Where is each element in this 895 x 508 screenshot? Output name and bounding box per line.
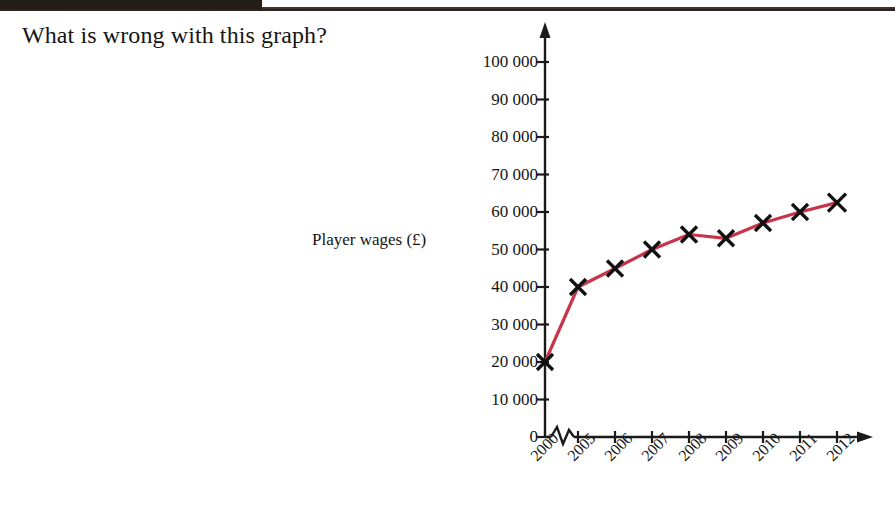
data-line [545, 203, 837, 362]
data-point-2005 [570, 279, 586, 295]
y-axis-ticks [537, 62, 549, 437]
data-point-2007 [644, 242, 660, 258]
data-markers [537, 194, 846, 370]
y-axis [540, 22, 551, 437]
plot-area [0, 0, 895, 508]
worksheet-page: What is wrong with this graph? Player wa… [0, 0, 895, 508]
line-chart: Player wages (£) 0 10 000 20 000 30 000 … [0, 0, 895, 508]
data-point-2006 [607, 261, 623, 277]
x-axis [545, 427, 873, 444]
